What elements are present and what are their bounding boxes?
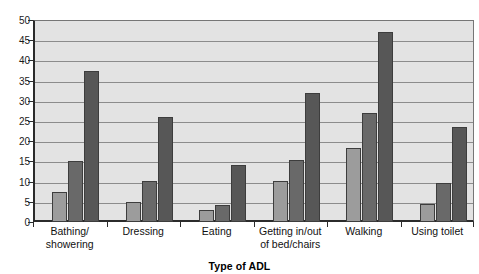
bar-group: [52, 20, 99, 222]
bar: [142, 181, 157, 222]
bar: [420, 204, 435, 222]
bar: [215, 205, 230, 222]
bar-chart: 05101520253035404550 Bathing/showeringDr…: [0, 0, 479, 274]
x-axis-category-labels: Bathing/showeringDressingEatingGetting i…: [33, 225, 474, 265]
bar: [68, 161, 83, 222]
bar: [436, 183, 451, 222]
bar: [199, 210, 214, 222]
x-axis-category-label: Using toilet: [391, 225, 479, 238]
bar: [305, 93, 320, 222]
bar: [231, 165, 246, 222]
bar: [273, 181, 288, 222]
x-axis-category-label-line: showering: [23, 238, 117, 251]
x-axis-category-label-line: of bed/chairs: [244, 238, 338, 251]
bar: [289, 160, 304, 222]
bar-group: [273, 20, 320, 222]
bars-layer: [35, 20, 473, 222]
bar: [52, 192, 67, 222]
bar: [362, 113, 377, 222]
bar: [158, 117, 173, 222]
bar-group: [199, 20, 246, 222]
bar: [126, 202, 141, 222]
x-axis-title: Type of ADL: [0, 260, 479, 273]
bar-group: [346, 20, 393, 222]
bar: [452, 127, 467, 222]
bar: [84, 71, 99, 223]
x-axis-category-label-line: Using toilet: [391, 225, 479, 238]
bar: [378, 32, 393, 222]
bar: [346, 148, 361, 222]
bar-group: [126, 20, 173, 222]
bar-group: [420, 20, 467, 222]
